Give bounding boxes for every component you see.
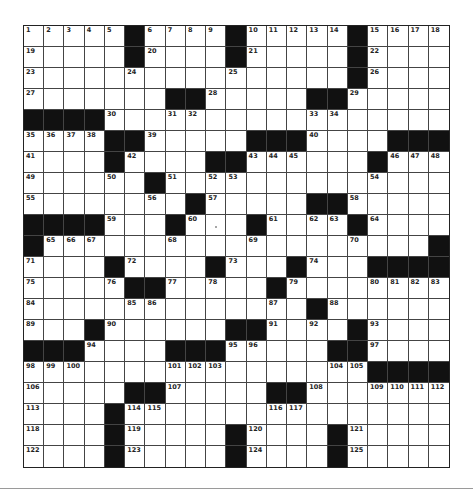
grid-cell[interactable]: 26 bbox=[368, 68, 388, 89]
grid-cell[interactable] bbox=[328, 131, 348, 152]
grid-cell[interactable] bbox=[388, 341, 408, 362]
grid-cell[interactable]: 5 bbox=[105, 26, 125, 47]
grid-cell[interactable]: 125 bbox=[348, 446, 368, 467]
grid-cell[interactable] bbox=[287, 341, 307, 362]
grid-cell[interactable]: 102 bbox=[186, 362, 206, 383]
grid-cell[interactable]: 17 bbox=[409, 26, 429, 47]
grid-cell[interactable] bbox=[44, 320, 64, 341]
grid-cell[interactable]: 11 bbox=[267, 26, 287, 47]
grid-cell[interactable] bbox=[307, 47, 327, 68]
grid-cell[interactable]: 112 bbox=[429, 383, 449, 404]
grid-cell[interactable]: 67 bbox=[85, 236, 105, 257]
grid-cell[interactable]: 75 bbox=[24, 278, 44, 299]
grid-cell[interactable]: 14 bbox=[328, 26, 348, 47]
grid-cell[interactable]: 39 bbox=[145, 131, 165, 152]
grid-cell[interactable]: 41 bbox=[24, 152, 44, 173]
grid-cell[interactable]: 52 bbox=[206, 173, 226, 194]
grid-cell[interactable]: 46 bbox=[388, 152, 408, 173]
grid-cell[interactable]: 19 bbox=[24, 47, 44, 68]
grid-cell[interactable]: 83 bbox=[429, 278, 449, 299]
grid-cell[interactable] bbox=[105, 236, 125, 257]
grid-cell[interactable] bbox=[166, 320, 186, 341]
grid-cell[interactable] bbox=[206, 215, 226, 236]
grid-cell[interactable] bbox=[267, 194, 287, 215]
grid-cell[interactable] bbox=[348, 404, 368, 425]
grid-cell[interactable] bbox=[328, 404, 348, 425]
grid-cell[interactable]: 53 bbox=[226, 173, 246, 194]
grid-cell[interactable] bbox=[429, 173, 449, 194]
grid-cell[interactable] bbox=[85, 68, 105, 89]
grid-cell[interactable]: 49 bbox=[24, 173, 44, 194]
grid-cell[interactable] bbox=[307, 152, 327, 173]
grid-cell[interactable]: 95 bbox=[226, 341, 246, 362]
grid-cell[interactable]: 36 bbox=[44, 131, 64, 152]
grid-cell[interactable]: 116 bbox=[267, 404, 287, 425]
grid-cell[interactable] bbox=[105, 299, 125, 320]
grid-cell[interactable] bbox=[267, 446, 287, 467]
grid-cell[interactable] bbox=[409, 320, 429, 341]
grid-cell[interactable] bbox=[206, 320, 226, 341]
grid-cell[interactable]: 44 bbox=[267, 152, 287, 173]
grid-cell[interactable]: 86 bbox=[145, 299, 165, 320]
grid-cell[interactable]: 88 bbox=[328, 299, 348, 320]
grid-cell[interactable]: 106 bbox=[24, 383, 44, 404]
grid-cell[interactable] bbox=[328, 152, 348, 173]
grid-cell[interactable] bbox=[125, 110, 145, 131]
grid-cell[interactable] bbox=[267, 236, 287, 257]
grid-cell[interactable]: 54 bbox=[368, 173, 388, 194]
grid-cell[interactable] bbox=[388, 320, 408, 341]
grid-cell[interactable] bbox=[186, 152, 206, 173]
grid-cell[interactable] bbox=[429, 425, 449, 446]
grid-cell[interactable] bbox=[429, 68, 449, 89]
grid-cell[interactable] bbox=[287, 446, 307, 467]
grid-cell[interactable] bbox=[429, 89, 449, 110]
grid-cell[interactable] bbox=[247, 110, 267, 131]
grid-cell[interactable] bbox=[267, 89, 287, 110]
grid-cell[interactable] bbox=[226, 110, 246, 131]
grid-cell[interactable] bbox=[166, 446, 186, 467]
grid-cell[interactable]: 71 bbox=[24, 257, 44, 278]
grid-cell[interactable] bbox=[85, 383, 105, 404]
grid-cell[interactable]: 37 bbox=[64, 131, 84, 152]
grid-cell[interactable]: 80 bbox=[368, 278, 388, 299]
grid-cell[interactable] bbox=[348, 257, 368, 278]
grid-cell[interactable]: 108 bbox=[307, 383, 327, 404]
grid-cell[interactable]: 29 bbox=[348, 89, 368, 110]
grid-cell[interactable] bbox=[44, 299, 64, 320]
grid-cell[interactable] bbox=[125, 173, 145, 194]
grid-cell[interactable] bbox=[64, 194, 84, 215]
grid-cell[interactable] bbox=[85, 173, 105, 194]
grid-cell[interactable] bbox=[186, 47, 206, 68]
grid-cell[interactable] bbox=[206, 383, 226, 404]
grid-cell[interactable]: 103 bbox=[206, 362, 226, 383]
grid-cell[interactable] bbox=[307, 236, 327, 257]
grid-cell[interactable] bbox=[368, 446, 388, 467]
grid-cell[interactable]: 33 bbox=[307, 110, 327, 131]
grid-cell[interactable] bbox=[44, 89, 64, 110]
grid-cell[interactable] bbox=[409, 47, 429, 68]
grid-cell[interactable] bbox=[287, 173, 307, 194]
grid-cell[interactable] bbox=[348, 152, 368, 173]
grid-cell[interactable]: 85 bbox=[125, 299, 145, 320]
grid-cell[interactable]: 22 bbox=[368, 47, 388, 68]
grid-cell[interactable]: 110 bbox=[388, 383, 408, 404]
grid-cell[interactable] bbox=[267, 173, 287, 194]
grid-cell[interactable] bbox=[388, 236, 408, 257]
grid-cell[interactable] bbox=[105, 194, 125, 215]
grid-cell[interactable] bbox=[166, 299, 186, 320]
grid-cell[interactable] bbox=[368, 236, 388, 257]
grid-cell[interactable] bbox=[186, 236, 206, 257]
grid-cell[interactable] bbox=[287, 215, 307, 236]
grid-cell[interactable] bbox=[267, 257, 287, 278]
grid-cell[interactable] bbox=[85, 404, 105, 425]
grid-cell[interactable] bbox=[85, 152, 105, 173]
grid-cell[interactable] bbox=[186, 383, 206, 404]
grid-cell[interactable] bbox=[409, 299, 429, 320]
grid-cell[interactable] bbox=[44, 446, 64, 467]
grid-cell[interactable] bbox=[307, 278, 327, 299]
grid-cell[interactable] bbox=[287, 362, 307, 383]
grid-cell[interactable] bbox=[64, 299, 84, 320]
grid-cell[interactable] bbox=[287, 236, 307, 257]
grid-cell[interactable] bbox=[409, 68, 429, 89]
grid-cell[interactable] bbox=[409, 194, 429, 215]
